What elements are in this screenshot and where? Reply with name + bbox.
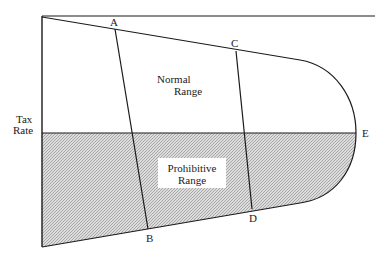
axis-label-rate: Rate — [13, 125, 33, 136]
point-label-C: C — [231, 38, 238, 49]
normal-range-line1: Normal — [157, 74, 191, 85]
point-label-D: D — [249, 213, 257, 224]
prohibitive-range-line2: Range — [158, 174, 226, 186]
normal-range-line2: Range — [174, 86, 202, 97]
point-label-B: B — [146, 233, 153, 244]
point-label-A: A — [110, 17, 118, 28]
prohibitive-region — [42, 133, 356, 247]
laffer-diagram — [0, 0, 385, 261]
upper-curve — [42, 17, 356, 133]
point-label-E: E — [362, 128, 369, 139]
prohibitive-range-line1: Prohibitive — [158, 162, 226, 174]
